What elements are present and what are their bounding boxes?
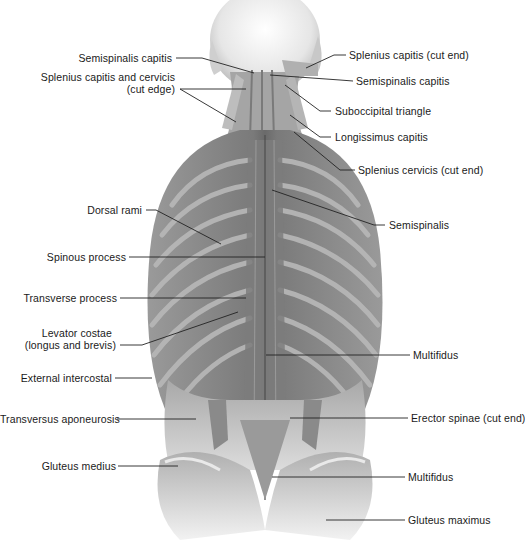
neck — [222, 60, 318, 140]
label-semispinalis-capitis-right: Semispinalis capitis — [356, 75, 450, 87]
label-dorsal-rami: Dorsal rami — [40, 204, 142, 216]
label-levator-costae-sub: (longus and brevis) — [10, 339, 116, 351]
label-transverse-process: Transverse process — [10, 292, 117, 304]
label-levator-costae: Levator costae — [10, 327, 112, 339]
label-splenius-cervicis-cut-end: Splenius cervicis (cut end) — [358, 164, 483, 176]
label-erector-spinae-cut-end: Erector spinae (cut end) — [411, 412, 525, 424]
label-suboccipital-triangle: Suboccipital triangle — [335, 105, 431, 117]
label-multifidus-lower: Multifidus — [408, 471, 453, 483]
label-gluteus-maximus: Gluteus maximus — [408, 514, 491, 526]
label-semispinalis-capitis-left: Semispinalis capitis — [50, 52, 172, 64]
label-gluteus-medius: Gluteus medius — [10, 460, 116, 472]
label-semispinalis: Semispinalis — [389, 219, 449, 231]
label-longissimus-capitis: Longissimus capitis — [335, 131, 428, 143]
label-multifidus-upper: Multifidus — [413, 349, 458, 361]
label-splenius-capitis-cervicis: Splenius capitis and cervicis — [20, 71, 175, 83]
label-splenius-capitis-cut-end: Splenius capitis (cut end) — [349, 49, 469, 61]
label-spinous-process: Spinous process — [20, 251, 126, 263]
label-transversus-aponeurosis: Transversus aponeurosis — [0, 413, 114, 425]
label-external-intercostal: External intercostal — [5, 372, 112, 384]
label-splenius-cut-edge: (cut edge) — [20, 83, 175, 95]
